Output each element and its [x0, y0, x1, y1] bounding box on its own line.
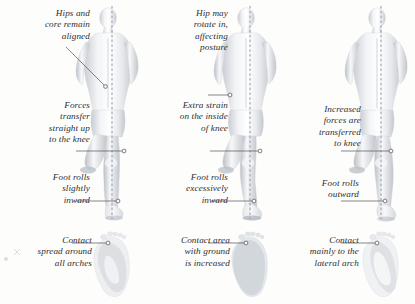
pronation-comparison-diagram: Hips and core remain aligned Forces tran… — [0, 0, 415, 304]
panel-supination: Increased forces are transferred to knee… — [277, 0, 415, 304]
footprint-overpronation — [232, 232, 267, 297]
callout-force-supination: Increased forces are transferred to knee — [273, 104, 361, 150]
leader-hip-overpronation — [208, 93, 232, 97]
callout-contact-supination: Contact mainly to the lateral arch — [267, 235, 359, 269]
callout-hip-overpronation: Hip may rotate in, affecting posture — [140, 8, 228, 54]
callout-roll-overpronation: Foot rolls excessively inward — [140, 172, 228, 206]
callout-roll-supination: Foot rolls outward — [271, 178, 359, 201]
footprint-neutral — [94, 232, 129, 297]
callout-force-neutral: Forces transfer straight up to the knee — [2, 100, 90, 146]
scan-artifact — [2, 243, 24, 269]
callout-contact-overpronation: Contact area with ground is increased — [138, 235, 230, 269]
footprint-supination — [363, 232, 398, 297]
panel-overpronation: Hip may rotate in, affecting posture Ext… — [138, 0, 276, 304]
callout-force-overpronation: Extra strain on the inside of knee — [140, 100, 228, 134]
callout-roll-neutral: Foot rolls slightly inward — [2, 172, 90, 206]
callout-hip-neutral: Hips and core remain aligned — [2, 8, 90, 42]
